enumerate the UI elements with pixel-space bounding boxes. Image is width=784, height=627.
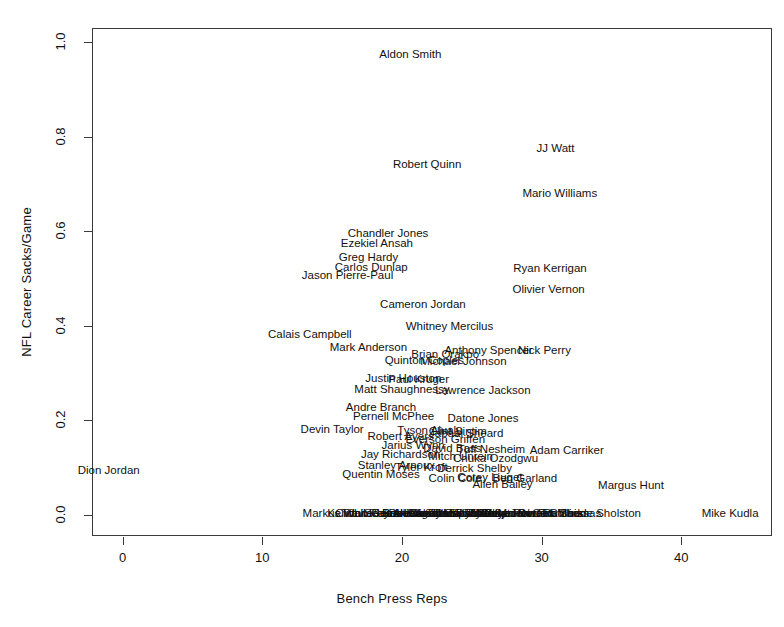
data-point-label: Calais Campbell: [268, 328, 352, 340]
data-point-label: JJ Watt: [537, 142, 575, 154]
data-point-label: Quentin Moses: [342, 468, 419, 480]
data-point-label: Cameron Jordan: [380, 298, 466, 310]
data-point-label: Mike Kudla: [702, 507, 759, 519]
data-point-label: Whitney Mercilus: [406, 320, 494, 332]
data-point-label: Ezekiel Ansah: [341, 237, 413, 249]
data-point-label: Allen Bailey: [472, 478, 532, 490]
data-point-label: Adam Carriker: [530, 444, 604, 456]
data-point-label: Devin Taylor: [301, 423, 364, 435]
data-point-label: Jason Pierre-Paul: [302, 269, 393, 281]
data-point-label: Ra'Shede Sholston: [543, 507, 641, 519]
data-point-label: Aldon Smith: [379, 48, 441, 60]
data-point-label: Margus Hunt: [598, 479, 664, 491]
data-point-label: Lawrence Jackson: [435, 384, 530, 396]
data-layer-clip: Aldon SmithJJ WattRobert QuinnMario Will…: [0, 0, 784, 627]
data-point-label: Mario Williams: [522, 187, 597, 199]
data-point-label: Olivier Vernon: [512, 283, 584, 295]
y-axis-title: NFL Career Sacks/Game: [19, 207, 34, 357]
data-point-label: Nick Perry: [518, 344, 571, 356]
data-point-label: Robert Quinn: [393, 158, 461, 170]
data-point-label: Datone Jones: [447, 412, 518, 424]
scatter-plot-figure: 0102030400.00.20.40.60.81.0 Aldon SmithJ…: [0, 0, 784, 627]
data-point-label: Mark Anderson: [330, 341, 407, 353]
data-point-label: Dion Jordan: [78, 464, 140, 476]
data-point-label: Pernell McPhee: [353, 410, 434, 422]
data-point-label: Ryan Kerrigan: [513, 262, 587, 274]
data-point-label: Michael Johnson: [420, 355, 506, 367]
x-axis-title: Bench Press Reps: [0, 591, 784, 606]
